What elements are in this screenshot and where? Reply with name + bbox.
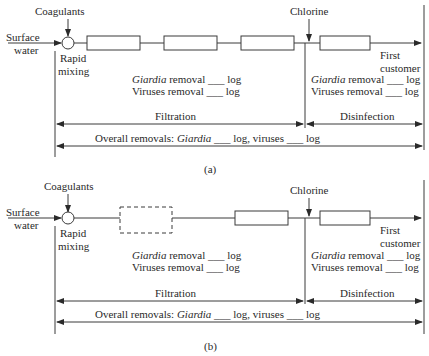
- rapid-mix-circle-icon: [62, 212, 74, 224]
- overall-removals-label: Overall removals: Giardia ___ log, virus…: [95, 308, 321, 320]
- coagulants-label: Coagulants: [35, 5, 85, 17]
- first-customer-line2: customer: [380, 237, 421, 249]
- caption-b: (b): [204, 340, 217, 353]
- first-customer-line1: First: [380, 49, 400, 61]
- caption-a: (a): [204, 163, 217, 176]
- filtration-viruses-removal: Viruses removal ___ log: [132, 85, 240, 97]
- chlorine-label: Chlorine: [290, 5, 329, 17]
- disinfection-stage-label: Disinfection: [340, 110, 395, 122]
- rapid-mix-circle-icon: [62, 37, 74, 49]
- filtration-giardia-removal: Giardia removal ___ log: [132, 73, 242, 85]
- source-label-line2: water: [14, 219, 39, 231]
- filtration-stage-label: Filtration: [155, 287, 196, 299]
- source-label-line2: water: [14, 44, 39, 56]
- disinfection-giardia-removal: Giardia removal ___ log: [311, 249, 421, 261]
- disinfection-viruses-removal: Viruses removal ___ log: [311, 261, 419, 273]
- disinfection-giardia-removal: Giardia removal ___ log: [311, 73, 421, 85]
- contact-basin-unit: [320, 36, 370, 50]
- first-customer-line1: First: [380, 224, 400, 236]
- rapid-mixing-line1: Rapid: [60, 227, 87, 239]
- diagram-a: Coagulants Surface water Rapid mixing Ch…: [6, 5, 424, 176]
- filtration-viruses-removal: Viruses removal ___ log: [132, 261, 240, 273]
- rapid-mixing-line1: Rapid: [60, 52, 87, 64]
- filtration-stage-label: Filtration: [155, 110, 196, 122]
- overall-removals-label: Overall removals: Giardia ___ log, virus…: [95, 132, 321, 144]
- disinfection-viruses-removal: Viruses removal ___ log: [311, 85, 419, 97]
- chlorine-label: Chlorine: [290, 184, 329, 196]
- optional-process-unit-dashed: [120, 207, 172, 233]
- treatment-train-diagrams: Coagulants Surface water Rapid mixing Ch…: [0, 0, 429, 356]
- coagulants-label: Coagulants: [44, 180, 94, 192]
- source-label-line1: Surface: [6, 31, 40, 43]
- process-unit-1: [87, 36, 140, 50]
- filtration-giardia-removal: Giardia removal ___ log: [132, 249, 242, 261]
- process-unit-3: [241, 36, 294, 50]
- disinfection-stage-label: Disinfection: [340, 287, 395, 299]
- process-unit-filter: [235, 211, 288, 225]
- process-unit-2: [164, 36, 217, 50]
- source-label-line1: Surface: [6, 206, 40, 218]
- rapid-mixing-line2: mixing: [58, 65, 90, 77]
- rapid-mixing-line2: mixing: [58, 240, 90, 252]
- contact-basin-unit: [320, 211, 370, 225]
- diagram-b: Coagulants Surface water Rapid mixing Ch…: [6, 180, 424, 353]
